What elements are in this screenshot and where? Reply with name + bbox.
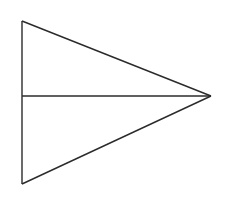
background-rect <box>0 0 225 214</box>
figure-canvas <box>0 0 225 214</box>
triangle-diagram <box>0 0 225 214</box>
